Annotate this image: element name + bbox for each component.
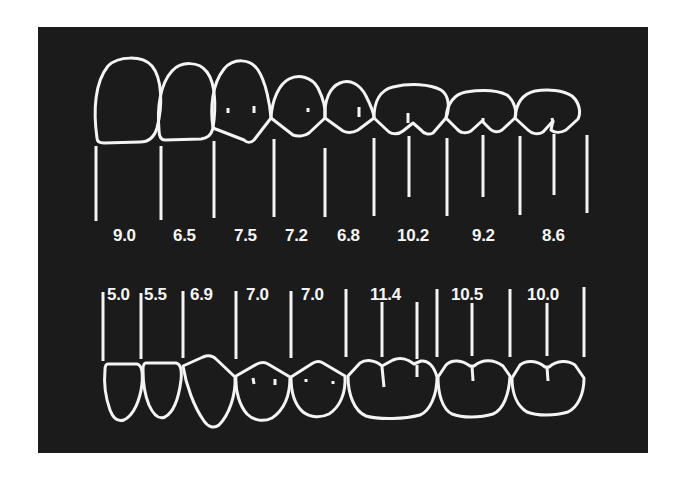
upper-first-premolar-outline: [271, 77, 325, 136]
lower-width-label: 10.0: [527, 286, 559, 303]
lower-canine-outline: [183, 356, 235, 427]
lower-central-incisor-outline: [105, 364, 143, 421]
fissure-mark: [472, 366, 473, 381]
upper-measurement-ticks: [96, 134, 587, 221]
upper-third-molar-outline: [515, 90, 580, 134]
lower-first-premolar-outline: [236, 363, 290, 421]
upper-width-label: 8.6: [542, 227, 565, 244]
upper-second-molar-outline: [446, 91, 516, 133]
cusp-mark: [253, 378, 254, 384]
lower-second-premolar-outline: [291, 362, 345, 417]
lower-width-label: 10.5: [451, 286, 483, 303]
upper-width-label: 6.8: [337, 227, 360, 244]
upper-canine-outline: [212, 61, 271, 142]
upper-width-label: 7.5: [234, 227, 257, 244]
upper-central-incisor-outline: [95, 58, 161, 143]
upper-first-molar-outline: [374, 85, 448, 134]
fissure-mark: [552, 118, 553, 123]
lower-first-molar-outline: [348, 359, 437, 419]
lower-width-label: 6.9: [190, 286, 213, 303]
upper-second-premolar-outline: [325, 82, 374, 133]
lower-measurement-ticks: [103, 287, 584, 361]
upper-width-label: 9.2: [472, 227, 495, 244]
upper-width-label: 6.5: [173, 227, 196, 244]
upper-width-label: 9.0: [113, 227, 136, 244]
lower-width-label: 7.0: [301, 286, 324, 303]
lower-arch: [103, 287, 584, 427]
lower-width-label: 7.0: [246, 286, 269, 303]
upper-arch: [95, 58, 587, 221]
lower-width-label: 5.0: [107, 286, 130, 303]
lower-width-label: 5.5: [144, 286, 167, 303]
upper-lateral-incisor-outline: [158, 64, 214, 140]
lower-width-label: 11.4: [370, 286, 401, 303]
lower-lateral-incisor-outline: [143, 363, 181, 418]
fissure-mark: [547, 367, 548, 381]
upper-width-label: 10.2: [397, 227, 429, 244]
lower-second-molar-outline: [438, 361, 510, 417]
upper-width-label: 7.2: [285, 227, 308, 244]
fissure-mark: [382, 367, 384, 387]
